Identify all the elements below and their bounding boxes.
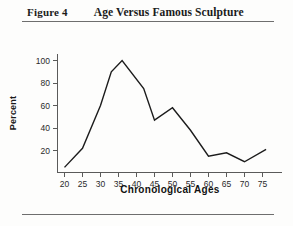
y-axis-group: 100 80 60 40 20 <box>36 54 58 173</box>
plot-area: Percent 100 80 60 40 20 <box>0 24 293 210</box>
figure-divider-bottom <box>22 214 274 215</box>
x-axis-title: Chronological Ages <box>55 184 285 195</box>
caption-divider-top <box>22 21 274 22</box>
figure-title: Age Versus Famous Sculpture <box>94 6 244 18</box>
y-tick-label-40: 40 <box>41 123 51 133</box>
y-tick-label-20: 20 <box>41 146 51 156</box>
y-tick-label-100: 100 <box>36 56 50 66</box>
data-series-line <box>65 61 267 168</box>
figure-number: Figure 4 <box>27 6 68 18</box>
y-tick-label-60: 60 <box>41 101 51 111</box>
y-tick-label-80: 80 <box>41 78 51 88</box>
figure-container: Figure 4 Age Versus Famous Sculpture Per… <box>0 0 293 226</box>
figure-caption: Figure 4 Age Versus Famous Sculpture <box>0 2 293 22</box>
line-chart: 100 80 60 40 20 20 <box>0 24 293 210</box>
